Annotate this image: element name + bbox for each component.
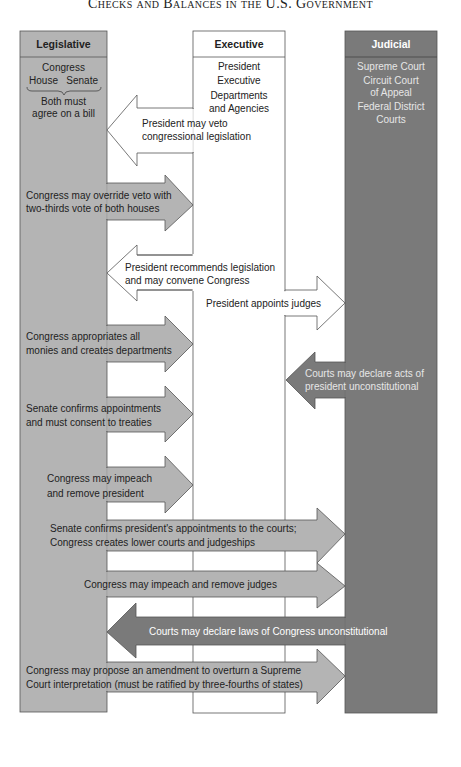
arrow-label: monies and creates departments [26, 345, 172, 356]
judicial-line: Circuit Court [363, 75, 419, 86]
arrow-label: congressional legislation [142, 131, 251, 142]
legislative-line: Congress [42, 62, 85, 73]
arrow-label: President recommends legislation [125, 262, 275, 273]
executive-line: and Agencies [209, 103, 269, 114]
arrow-label: president unconstitutional [305, 381, 418, 392]
executive-line: Departments [210, 90, 267, 101]
arrow-label: and may convene Congress [125, 275, 250, 286]
arrow-label: Congress may impeach [47, 473, 152, 484]
judicial-line: of Appeal [370, 87, 412, 98]
arrow-label: Congress creates lower courts and judges… [50, 537, 255, 548]
arrow-label: and remove president [47, 488, 144, 499]
arrow-label: President appoints judges [206, 298, 321, 309]
checks-balances-diagram: Legislative Executive Judicial Congress … [0, 0, 461, 767]
executive-header: Executive [214, 38, 263, 50]
legislative-line: Both must [41, 96, 86, 107]
judicial-line: Federal District [357, 101, 424, 112]
legislative-column [20, 31, 107, 712]
executive-line: President [218, 61, 260, 72]
arrow-label: Senate confirms president's appointments… [50, 523, 296, 534]
judicial-line: Supreme Court [357, 61, 425, 72]
arrow-label: President may veto [142, 118, 228, 129]
arrow-label: Congress may propose an amendment to ove… [26, 665, 302, 676]
arrow-label: Congress may impeach and remove judges [84, 579, 277, 590]
arrow-label: Court interpretation (must be ratified b… [26, 679, 303, 690]
arrow-label: Congress appropriates all [26, 331, 140, 342]
judicial-header: Judicial [371, 38, 410, 50]
arrow-label: two-thirds vote of both houses [26, 203, 159, 214]
executive-line: Executive [217, 75, 261, 86]
arrow-label: Courts may declare acts of [305, 368, 424, 379]
arrow-label: and must consent to treaties [26, 417, 152, 428]
judicial-line: Courts [376, 114, 405, 125]
arrow-label: Senate confirms appointments [26, 403, 161, 414]
arrow-label: Courts may declare laws of Congress unco… [149, 626, 387, 637]
arrow-label: Congress may override veto with [26, 190, 172, 201]
legislative-line: agree on a bill [32, 108, 95, 119]
legislative-header: Legislative [36, 38, 90, 50]
legislative-line: House Senate [29, 75, 98, 86]
